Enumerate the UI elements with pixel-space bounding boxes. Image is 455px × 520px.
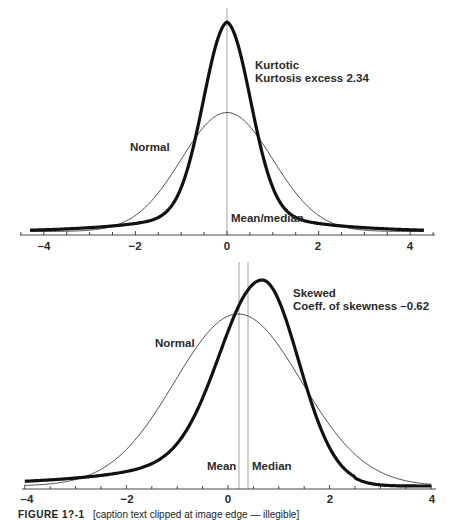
tick-label: −2 xyxy=(120,493,133,505)
kurtosis-excess-label: Kurtosis excess 2.34 xyxy=(255,72,369,85)
mean-median-label: Mean/median xyxy=(231,212,304,225)
tick-label: 2 xyxy=(327,493,333,505)
normal-label-top: Normal xyxy=(130,141,170,154)
figure-caption: FIGURE 1?-1 [caption text clipped at ima… xyxy=(18,509,299,520)
tick-label: −2 xyxy=(128,240,141,252)
tick-label: –4 xyxy=(38,240,51,252)
skewness-chart: Skewed Coeff. of skewness –0.62 Normal M… xyxy=(0,260,455,505)
kurtosis-chart: Kurtotic Kurtosis excess 2.34 Normal Mea… xyxy=(0,0,455,260)
median-label: Median xyxy=(252,460,292,473)
tick-label: 2 xyxy=(315,240,321,252)
tick-label: 0 xyxy=(224,240,230,252)
mean-label: Mean xyxy=(207,460,236,473)
tick-label: –4 xyxy=(21,493,34,505)
tick-label: 4 xyxy=(429,493,435,505)
skewness-coefficient-label: Coeff. of skewness –0.62 xyxy=(293,300,429,313)
x-axis-ticks xyxy=(21,231,433,235)
skewed-label: Skewed xyxy=(293,287,336,300)
figure-number: FIGURE 1?-1 xyxy=(18,509,85,520)
normal-label-bottom: Normal xyxy=(155,337,195,350)
tick-label: 4 xyxy=(407,240,413,252)
tick-label: 0 xyxy=(225,493,231,505)
x-axis-ticks xyxy=(25,485,431,489)
kurtotic-label: Kurtotic xyxy=(255,59,299,72)
figure-caption-text: [caption text clipped at image edge — il… xyxy=(93,509,299,520)
kurtosis-plot-area xyxy=(0,0,455,260)
